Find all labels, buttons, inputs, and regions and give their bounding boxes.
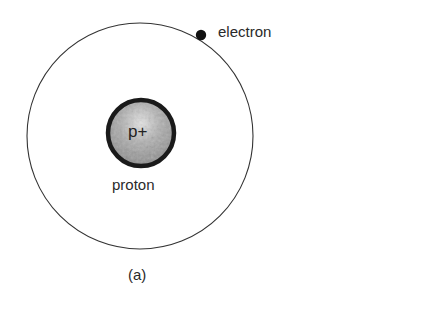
electron-icon <box>196 30 206 40</box>
figure-caption: (a) <box>128 266 146 283</box>
hydrogen-atom-diagram <box>0 0 440 313</box>
proton-label: proton <box>112 176 155 193</box>
proton-charge-symbol: p+ <box>128 122 147 142</box>
electron-label: electron <box>218 23 271 40</box>
